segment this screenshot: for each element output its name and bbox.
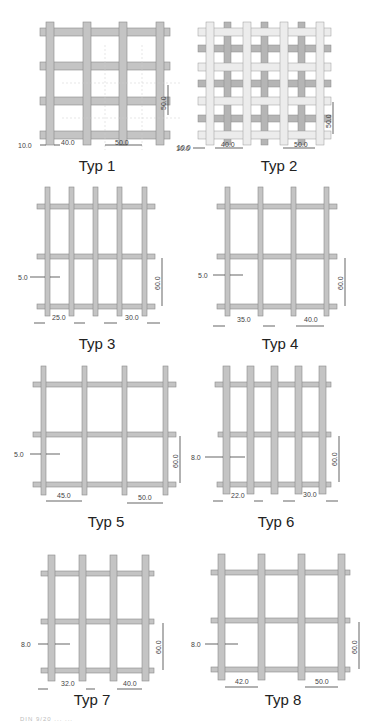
mesh-typ1-diagram: 10.0 40.0 50.0 50.0 10.0 (0, 0, 193, 175)
panel-typ2: 10.0 40.0 50.0 50.0 Typ 2 (193, 0, 386, 175)
dim-gap: 42.0 (235, 678, 249, 685)
panel-typ7: 8.0 32.0 40.0 60.0 Typ 7 (0, 530, 193, 710)
dim-wire: 8.0 (21, 641, 31, 648)
dim-edge: 10.0 (176, 145, 190, 152)
dim-vpitch: 60.0 (172, 454, 179, 468)
dim-gap: 32.0 (61, 680, 75, 687)
dim-gap: 40.0 (221, 141, 235, 148)
mesh-typ4-diagram: 5.0 35.0 40.0 60.0 (193, 170, 386, 350)
panel-typ4: 5.0 35.0 40.0 60.0 Typ 4 (193, 170, 386, 350)
dim-vpitch: 60.0 (331, 452, 338, 466)
mesh-typ5-diagram: 5.0 45.0 50.0 60.0 (0, 350, 193, 530)
dim-edge: 10.0 (18, 142, 32, 149)
caption-typ6: Typ 6 (226, 513, 326, 530)
dim-vpitch: 60.0 (155, 640, 162, 654)
dim-vpitch: 60.0 (337, 276, 344, 290)
dim-wire: 8.0 (191, 641, 201, 648)
caption-typ8: Typ 8 (233, 691, 333, 708)
panel-typ1: 10.0 40.0 50.0 50.0 10.0 Typ 1 (0, 0, 193, 175)
panel-typ3: 5.0 25.0 30.0 60.0 Typ 3 (0, 170, 193, 350)
footer-caption: DIN 9/20 ... ... (20, 716, 73, 722)
dim-gap: 25.0 (52, 314, 66, 321)
dim-vpitch: 60.0 (351, 640, 358, 654)
dim-gap: 40.0 (61, 139, 75, 146)
dim-pitch: 40.0 (304, 316, 318, 323)
caption-typ5: Typ 5 (56, 513, 156, 530)
panel-typ8: 8.0 42.0 50.0 60.0 Typ 8 (193, 530, 386, 710)
dim-wire: 5.0 (198, 272, 208, 279)
dim-pitch: 50.0 (315, 678, 329, 685)
dim-vpitch: 50.0 (325, 114, 332, 128)
mesh-typ6-diagram: 8.0 22.0 30.0 60.0 (193, 350, 386, 530)
dim-gap: 35.0 (237, 316, 251, 323)
panel-typ5: 5.0 45.0 50.0 60.0 Typ 5 (0, 350, 193, 530)
mesh-typ3-diagram: 5.0 25.0 30.0 60.0 (0, 170, 193, 350)
dim-vpitch: 50.0 (160, 96, 167, 110)
dim-pitch: 30.0 (303, 491, 317, 498)
dim-wire: 8.0 (191, 454, 201, 461)
mesh-typ8-diagram: 8.0 42.0 50.0 60.0 (193, 530, 386, 710)
dim-wire: 5.0 (18, 274, 28, 281)
dim-pitch: 50.0 (138, 494, 152, 501)
dim-pitch: 50.0 (294, 141, 308, 148)
dim-pitch: 50.0 (115, 139, 129, 146)
dim-vpitch: 60.0 (154, 276, 161, 290)
mesh-typ7-diagram: 8.0 32.0 40.0 60.0 (0, 530, 193, 710)
dim-pitch: 30.0 (125, 314, 139, 321)
dim-gap: 45.0 (57, 492, 71, 499)
dim-wire: 5.0 (14, 451, 24, 458)
dim-pitch: 40.0 (123, 680, 137, 687)
panel-typ6: 8.0 22.0 30.0 60.0 Typ 6 (193, 350, 386, 530)
mesh-typ2-diagram: 10.0 40.0 50.0 50.0 (193, 0, 386, 175)
caption-typ7: Typ 7 (42, 691, 142, 708)
dim-gap: 22.0 (231, 492, 245, 499)
